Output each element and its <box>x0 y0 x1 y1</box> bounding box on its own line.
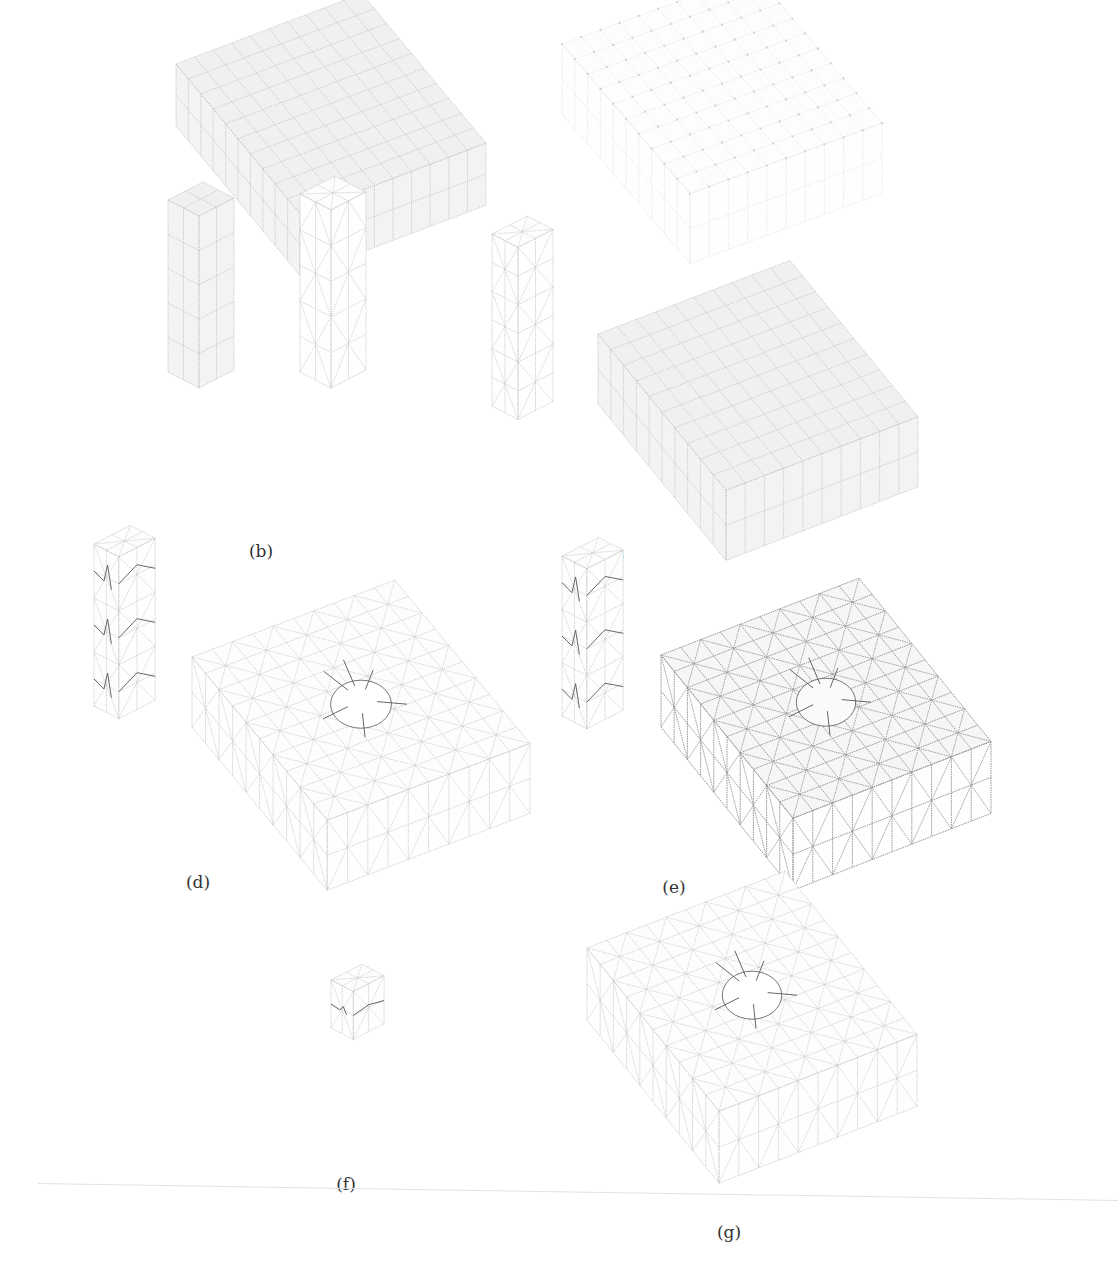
label-e: (e) <box>662 877 685 897</box>
label-b: (b) <box>249 541 273 561</box>
label-f: (f) <box>336 1174 356 1194</box>
mesh-g <box>0 0 1 1</box>
ground-line <box>38 1183 1118 1201</box>
label-d: (d) <box>186 872 210 892</box>
label-g: (g) <box>717 1222 741 1242</box>
